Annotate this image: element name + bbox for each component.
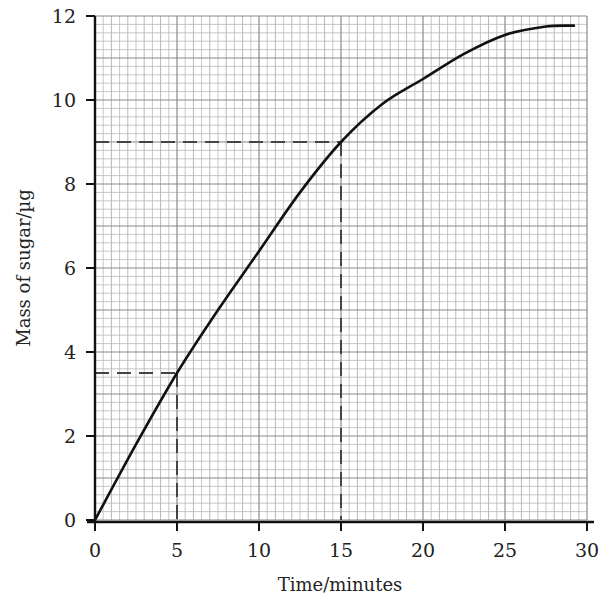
x-tick-label: 10: [247, 539, 271, 561]
x-tick-label: 20: [411, 539, 435, 561]
x-tick-label: 30: [575, 539, 599, 561]
y-tick-label: 4: [64, 341, 76, 363]
sugar-mass-chart: 051015202530 024681012 Time/minutes Mass…: [0, 0, 603, 613]
y-tick-label: 2: [64, 425, 76, 447]
x-tick-label: 5: [171, 539, 183, 561]
y-tick-label: 10: [52, 89, 76, 111]
x-tick-label: 15: [329, 539, 353, 561]
x-axis-title: Time/minutes: [278, 574, 403, 595]
x-axis-ticks: 051015202530: [89, 522, 599, 561]
y-tick-label: 8: [64, 173, 76, 195]
y-tick-label: 6: [64, 257, 76, 279]
y-axis-ticks: 024681012: [52, 5, 95, 531]
y-tick-label: 12: [52, 5, 76, 27]
x-tick-label: 25: [493, 539, 517, 561]
x-tick-label: 0: [89, 539, 101, 561]
y-axis-title: Mass of sugar/µg: [13, 189, 34, 347]
y-tick-label: 0: [64, 509, 76, 531]
